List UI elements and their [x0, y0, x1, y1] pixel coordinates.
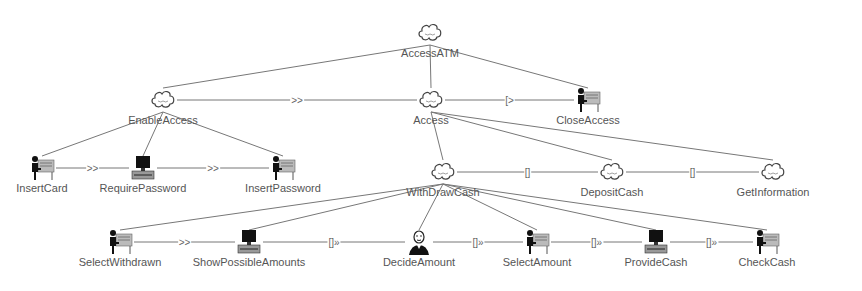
task-label: RequirePassword [63, 182, 223, 194]
user-interaction-icon [28, 154, 56, 182]
user-interaction-icon [523, 228, 551, 256]
task-label: GetInformation [693, 186, 853, 198]
abstract-task-cloud-icon [149, 86, 177, 114]
user-interaction-icon [574, 86, 602, 114]
temporal-operator: [> [504, 95, 515, 106]
task-label: ShowPossibleAmounts [169, 256, 329, 268]
user-interaction-icon [269, 154, 297, 182]
abstract-task-cloud-icon [598, 158, 626, 186]
task-label: InsertPassword [203, 182, 363, 194]
task-model-diagram: >>[>>>>>[][]>>[]»[]»[]»[]»AccessATMEnabl… [0, 0, 862, 291]
computer-application-icon [129, 154, 157, 182]
task-label: EnableAccess [83, 114, 243, 126]
temporal-operator: >> [206, 163, 220, 174]
abstract-task-cloud-icon [416, 19, 444, 47]
abstract-task-cloud-icon [417, 86, 445, 114]
task-label: AccessATM [350, 47, 510, 59]
user-interaction-icon [753, 228, 781, 256]
temporal-operator: [] [689, 167, 697, 178]
task-label: DepositCash [532, 186, 692, 198]
temporal-operator: []» [327, 237, 340, 248]
task-label: CloseAccess [508, 114, 668, 126]
computer-application-icon [642, 228, 670, 256]
task-label: WithDrawCash [363, 186, 523, 198]
abstract-task-cloud-icon [759, 158, 787, 186]
temporal-operator: []» [705, 237, 718, 248]
computer-application-icon [235, 228, 263, 256]
temporal-operator: >> [86, 163, 100, 174]
user-cognitive-task-icon [405, 228, 433, 256]
abstract-task-cloud-icon [429, 158, 457, 186]
task-label: Access [351, 114, 511, 126]
task-label: CheckCash [687, 256, 847, 268]
user-interaction-icon [106, 228, 134, 256]
temporal-operator: >> [290, 95, 304, 106]
temporal-operator: [] [524, 167, 532, 178]
temporal-operator: []» [590, 237, 603, 248]
temporal-operator: >> [178, 237, 192, 248]
temporal-operator: []» [471, 237, 484, 248]
